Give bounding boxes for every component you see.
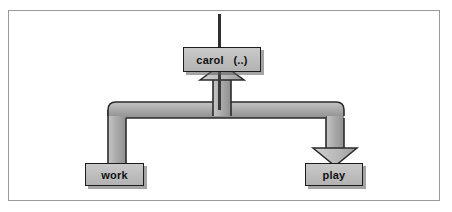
node-play[interactable]: play — [305, 163, 363, 186]
node-carol[interactable]: carol (..) — [183, 47, 261, 72]
node-work-label: work — [101, 169, 127, 181]
entry-line-edge — [218, 14, 221, 50]
diagram-canvas — [0, 0, 452, 212]
node-play-label: play — [323, 169, 346, 181]
node-work[interactable]: work — [85, 163, 144, 186]
diagram-figure: carol (..) work play — [0, 0, 452, 212]
node-carol-label: carol (..) — [196, 54, 247, 66]
